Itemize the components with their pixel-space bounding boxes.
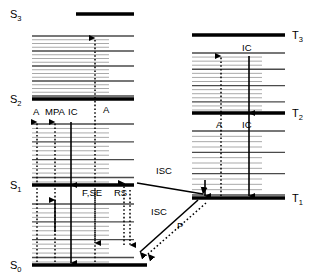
process-label-P-phosphorescence: P bbox=[177, 220, 183, 231]
process-label-ISC-t1-s0: ISC bbox=[151, 206, 167, 217]
state-label-T3: T3 bbox=[292, 29, 303, 44]
jablonski-diagram-canvas: AMPAICAF,SERSISCISCPICAIC S3S2S1S0T3T2T1 bbox=[0, 0, 323, 280]
process-label-F-SE: F,SE bbox=[82, 187, 102, 198]
process-label-A-triplet: A bbox=[216, 119, 223, 130]
state-label-S3: S3 bbox=[10, 8, 22, 23]
process-label-IC-t3-t2: IC bbox=[242, 42, 252, 53]
state-label-T1: T1 bbox=[292, 192, 303, 207]
state-label-T2: T2 bbox=[292, 107, 303, 122]
process-label-RS: RS bbox=[114, 187, 127, 198]
jablonski-diagram-figure: AMPAICAF,SERSISCISCPICAIC S3S2S1S0T3T2T1 bbox=[0, 0, 323, 280]
process-label-A-s0-s2: A bbox=[103, 104, 110, 115]
process-label-MPA: MPA bbox=[45, 106, 66, 117]
process-label-IC-t2-t1: IC bbox=[242, 119, 252, 130]
state-labels-group: S3S2S1S0T3T2T1 bbox=[10, 8, 303, 274]
vibronic-levels-group bbox=[32, 36, 285, 262]
state-label-S0: S0 bbox=[10, 259, 22, 274]
process-label-ISC-s1-t1: ISC bbox=[156, 165, 172, 176]
diagonal-arrow-ISC-t1-to-s0 bbox=[140, 200, 198, 252]
diagonal-arrows-group bbox=[137, 183, 206, 254]
state-label-S1: S1 bbox=[10, 179, 22, 194]
process-label-A-singlet-low: A bbox=[33, 106, 40, 117]
process-label-IC-s2-s1: IC bbox=[68, 106, 78, 117]
state-label-S2: S2 bbox=[10, 93, 22, 108]
